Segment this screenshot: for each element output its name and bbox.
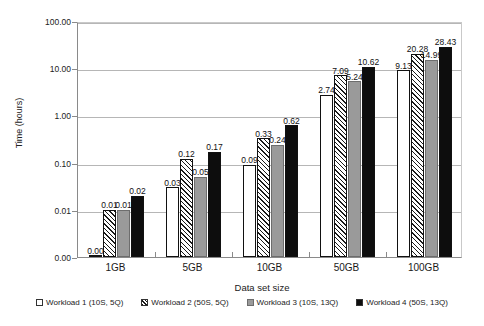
y-tick-label: 10.00 — [11, 64, 71, 74]
bar[interactable]: 7.09 — [334, 75, 347, 257]
bar[interactable]: 9.13 — [397, 70, 410, 257]
legend-swatch-icon — [356, 299, 363, 306]
bar-value-label: 0.00 — [87, 247, 104, 256]
bar-value-label: 0.01 — [115, 201, 132, 210]
x-tick-mark — [386, 252, 387, 257]
bar-value-label: 0.09 — [241, 156, 258, 165]
bar-value-label: 0.62 — [283, 117, 300, 126]
bar[interactable]: 0.17 — [208, 152, 221, 257]
legend-swatch-icon — [36, 299, 43, 306]
bar[interactable]: 0.00 — [89, 255, 102, 257]
bar-chart: Time (hours) Data set size 100.0010.001.… — [0, 0, 484, 326]
x-tick-mark — [309, 252, 310, 257]
bar-group: 9.1320.2814.9928.43 — [386, 23, 463, 257]
bar-value-label: 0.02 — [129, 187, 146, 196]
legend: Workload 1 (10S, 5Q)Workload 2 (50S, 5Q)… — [0, 298, 484, 307]
bar-value-label: 10.62 — [358, 58, 379, 67]
legend-label: Workload 2 (50S, 5Q) — [151, 298, 228, 307]
bar-group: 0.090.330.240.62 — [232, 23, 309, 257]
bar[interactable]: 0.02 — [131, 196, 144, 257]
bar[interactable]: 0.01 — [103, 210, 116, 257]
bar[interactable]: 0.01 — [117, 210, 130, 257]
bar-value-label: 0.12 — [178, 150, 195, 159]
bar[interactable]: 0.24 — [271, 145, 284, 257]
bar-group: 0.000.010.010.02 — [78, 23, 155, 257]
bar-group: 0.030.120.050.17 — [155, 23, 232, 257]
x-category-label: 1GB — [77, 262, 154, 273]
y-tick-label: 100.00 — [11, 17, 71, 27]
bar-group: 2.747.095.2410.62 — [309, 23, 386, 257]
y-tick-label: 0.00 — [11, 253, 71, 263]
bar[interactable]: 5.24 — [348, 81, 361, 257]
bar[interactable]: 10.62 — [362, 67, 375, 257]
bar[interactable]: 0.03 — [166, 187, 179, 257]
x-tick-mark — [232, 252, 233, 257]
bar[interactable]: 28.43 — [439, 47, 452, 257]
bar-value-label: 0.05 — [192, 168, 209, 177]
legend-item[interactable]: Workload 2 (50S, 5Q) — [141, 298, 228, 307]
legend-label: Workload 3 (10S, 13Q) — [257, 298, 339, 307]
y-tick-label: 1.00 — [11, 111, 71, 121]
bar[interactable]: 0.05 — [194, 177, 207, 257]
legend-label: Workload 1 (10S, 5Q) — [46, 298, 123, 307]
bar[interactable]: 2.74 — [320, 95, 333, 257]
bar-value-label: 0.03 — [164, 179, 181, 188]
plot-area: 0.000.010.010.020.030.120.050.170.090.33… — [77, 22, 462, 258]
bar[interactable]: 20.28 — [411, 54, 424, 257]
x-tick-mark — [155, 252, 156, 257]
x-category-label: 100GB — [385, 262, 462, 273]
bar-value-label: 0.24 — [269, 136, 286, 145]
x-axis-title: Data set size — [60, 282, 464, 293]
bar[interactable]: 14.99 — [425, 60, 438, 257]
bar-value-label: 28.43 — [435, 38, 456, 47]
y-tick-label: 0.10 — [11, 159, 71, 169]
x-category-label: 10GB — [231, 262, 308, 273]
gridline — [78, 259, 461, 260]
bar-value-label: 0.17 — [206, 143, 223, 152]
bar[interactable]: 0.33 — [257, 138, 270, 257]
bar-value-label: 5.24 — [346, 73, 363, 82]
legend-swatch-icon — [141, 299, 148, 306]
bar[interactable]: 0.09 — [243, 165, 256, 257]
x-category-label: 5GB — [154, 262, 231, 273]
bar[interactable]: 0.62 — [285, 125, 298, 257]
y-tick-mark — [72, 258, 77, 259]
legend-item[interactable]: Workload 4 (50S, 13Q) — [356, 298, 448, 307]
x-category-label: 50GB — [308, 262, 385, 273]
bar-value-label: 2.74 — [318, 86, 335, 95]
y-tick-label: 0.01 — [11, 206, 71, 216]
legend-swatch-icon — [247, 299, 254, 306]
bar[interactable]: 0.12 — [180, 159, 193, 257]
bar-value-label: 9.13 — [395, 62, 412, 71]
legend-item[interactable]: Workload 3 (10S, 13Q) — [247, 298, 339, 307]
legend-item[interactable]: Workload 1 (10S, 5Q) — [36, 298, 123, 307]
legend-label: Workload 4 (50S, 13Q) — [366, 298, 448, 307]
